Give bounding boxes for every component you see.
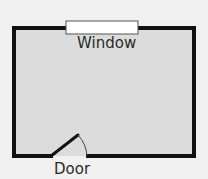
- floor-plan-drawing: [0, 0, 208, 179]
- door-label: Door: [54, 162, 90, 177]
- window-label: Window: [77, 36, 136, 51]
- window-symbol: [66, 21, 138, 34]
- floor-plan-diagram: Window Door: [0, 0, 208, 179]
